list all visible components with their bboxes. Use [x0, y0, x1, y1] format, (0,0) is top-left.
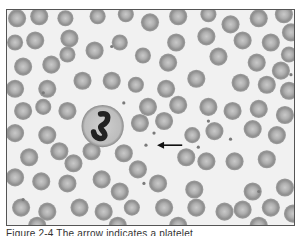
red-blood-cell: [281, 47, 295, 63]
red-blood-cell: [197, 27, 215, 45]
red-blood-cell: [185, 180, 203, 198]
platelet: [229, 138, 232, 141]
red-blood-cell: [59, 47, 75, 63]
red-blood-cell: [95, 203, 113, 221]
red-blood-cell: [8, 10, 26, 27]
red-blood-cell: [262, 199, 280, 217]
red-blood-cell: [169, 217, 187, 226]
red-blood-cell: [234, 31, 252, 49]
red-blood-cell: [169, 10, 187, 25]
red-blood-cell: [26, 31, 44, 49]
red-blood-cell: [167, 33, 185, 51]
red-blood-cell: [30, 10, 48, 25]
red-blood-cell: [131, 114, 149, 132]
red-blood-cell: [7, 168, 24, 186]
red-blood-cell: [112, 34, 128, 50]
smear-svg: [7, 10, 295, 226]
red-blood-cell: [90, 10, 106, 24]
platelet: [289, 73, 292, 76]
red-blood-cell: [73, 72, 91, 90]
red-blood-cell: [282, 23, 295, 41]
red-blood-cell: [200, 10, 216, 22]
red-blood-cell: [128, 77, 144, 93]
red-blood-cell: [248, 54, 266, 72]
red-blood-cell: [199, 98, 217, 116]
red-blood-cell: [234, 201, 252, 219]
red-blood-cell: [221, 15, 239, 33]
red-blood-cell: [7, 34, 23, 50]
red-blood-cell: [38, 126, 56, 144]
red-blood-cell: [244, 120, 262, 138]
red-blood-cells: [7, 10, 295, 226]
red-blood-cell: [20, 148, 38, 166]
red-blood-cell: [57, 10, 73, 26]
platelet: [197, 146, 200, 149]
red-blood-cell: [58, 174, 76, 192]
red-blood-cell: [155, 112, 173, 130]
platelet: [257, 190, 260, 193]
red-blood-cell: [139, 98, 157, 116]
red-blood-cell: [109, 217, 127, 226]
red-blood-cell: [250, 10, 268, 27]
red-blood-cell: [86, 41, 104, 59]
red-blood-cell: [187, 70, 205, 88]
platelet: [22, 198, 25, 201]
platelet: [42, 91, 45, 94]
platelet: [110, 45, 113, 48]
red-blood-cell: [209, 48, 227, 66]
platelet: [144, 144, 147, 147]
red-blood-cell: [32, 172, 50, 190]
red-blood-cell: [280, 82, 295, 100]
red-blood-cell: [184, 127, 200, 143]
red-blood-cell: [103, 72, 121, 90]
red-blood-cell: [197, 152, 215, 170]
red-blood-cell: [159, 54, 177, 72]
arrow-left-icon: [157, 142, 164, 149]
red-blood-cell: [7, 124, 24, 142]
red-blood-cell: [60, 29, 78, 47]
platelet: [142, 182, 145, 185]
red-blood-cell: [187, 199, 205, 217]
red-blood-cell: [250, 217, 268, 226]
red-blood-cell: [149, 174, 167, 192]
red-blood-cell: [223, 102, 241, 120]
red-blood-cell: [276, 106, 294, 124]
red-blood-cell: [169, 96, 187, 114]
red-blood-cell: [111, 182, 129, 200]
red-blood-cell: [205, 122, 223, 140]
red-blood-cell: [232, 74, 250, 92]
red-blood-cell: [262, 33, 280, 51]
red-blood-cell: [177, 148, 195, 166]
red-blood-cell: [258, 150, 276, 168]
red-blood-cell: [50, 142, 68, 160]
red-blood-cell: [276, 178, 294, 196]
red-blood-cell: [272, 62, 290, 80]
red-blood-cell: [42, 56, 60, 74]
red-blood-cell: [70, 199, 88, 217]
red-blood-cell: [38, 80, 56, 98]
red-blood-cell: [115, 144, 133, 162]
red-blood-cell: [35, 99, 51, 115]
red-blood-cell: [118, 10, 134, 22]
arrow-annotation: [157, 142, 182, 149]
red-blood-cell: [12, 199, 30, 217]
red-blood-cell: [155, 199, 173, 217]
red-blood-cell: [268, 126, 286, 144]
red-blood-cell: [226, 152, 244, 170]
red-blood-cell: [64, 154, 82, 172]
red-blood-cell: [250, 100, 268, 118]
blood-smear-micrograph: [6, 9, 295, 226]
red-blood-cell: [14, 58, 32, 76]
red-blood-cell: [93, 170, 111, 188]
platelet: [152, 131, 155, 134]
red-blood-cell: [215, 203, 233, 221]
red-blood-cell: [14, 102, 32, 120]
red-blood-cell: [58, 102, 76, 120]
platelet: [207, 119, 210, 122]
red-blood-cell: [157, 80, 175, 98]
red-blood-cell: [129, 160, 147, 178]
red-blood-cell: [258, 76, 276, 94]
red-blood-cell: [141, 13, 159, 31]
red-blood-cell: [7, 80, 24, 98]
red-blood-cell: [124, 200, 140, 216]
